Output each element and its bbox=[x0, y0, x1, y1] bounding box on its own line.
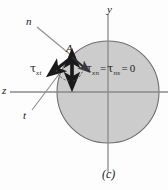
tau-xt-label: τxt bbox=[30, 63, 42, 77]
figure-caption: (c) bbox=[102, 168, 115, 180]
equals-sign-2: = bbox=[120, 62, 128, 74]
stress-element-figure: n t y z A τxt τxn=τnx=0 (c) bbox=[0, 0, 168, 190]
t-axis-label: t bbox=[23, 110, 26, 121]
zero-value: 0 bbox=[129, 62, 137, 74]
figure-canvas bbox=[0, 0, 168, 190]
point-a-label: A bbox=[66, 43, 73, 54]
n-axis-label: n bbox=[26, 16, 32, 27]
y-axis-label: y bbox=[107, 4, 112, 15]
tau-equation-label: τxn=τnx=0 bbox=[86, 63, 136, 77]
tau-xt-subscript: xt bbox=[36, 69, 41, 77]
z-axis-label: z bbox=[2, 85, 6, 96]
